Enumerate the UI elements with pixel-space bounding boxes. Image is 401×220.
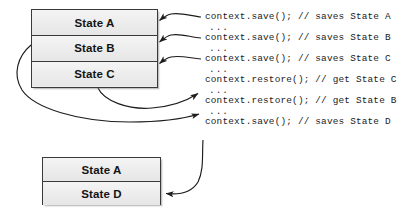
code-line-restore-c: context.restore(); // get State C (205, 75, 397, 85)
code-line-save-d: context.save(); // saves State D (205, 117, 391, 127)
code-annotations: context.save(); // saves State A ... con… (0, 0, 401, 220)
code-line-save-c: context.save(); // saves State C (205, 54, 391, 64)
code-line-save-b: context.save(); // saves State B (205, 33, 391, 43)
code-line-save-a: context.save(); // saves State A (205, 12, 391, 22)
code-line-restore-b: context.restore(); // get State B (205, 96, 397, 106)
